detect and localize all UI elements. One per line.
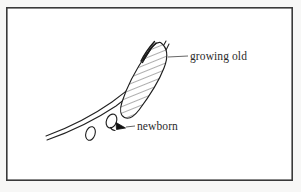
label-growing-old: growing old <box>190 51 247 63</box>
label-newborn: newborn <box>137 121 178 133</box>
diagram-canvas <box>0 0 301 192</box>
figure-plate: growing old newborn <box>0 0 301 192</box>
